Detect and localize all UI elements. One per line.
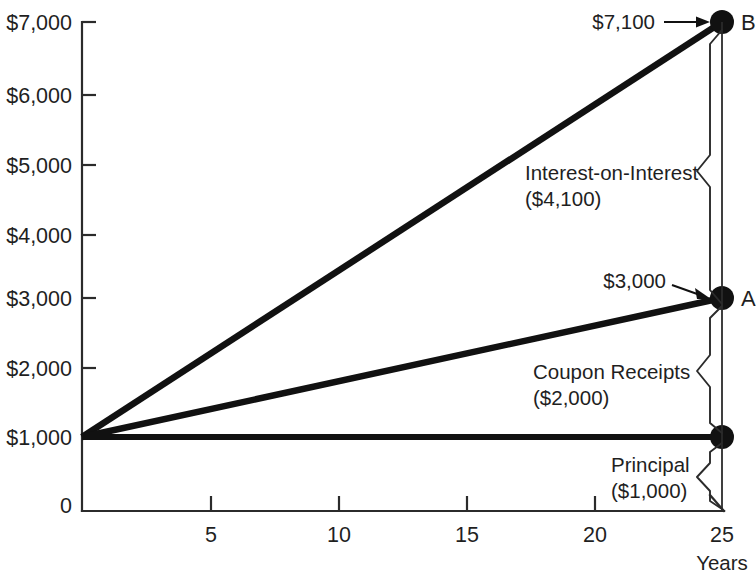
brace-interest-on-interest (697, 30, 722, 304)
x-axis-tick-labels: 5 10 15 20 25 (205, 523, 734, 547)
annotation-amount-principal: ($1,000) (611, 479, 687, 502)
brace-coupon-receipts (697, 306, 722, 433)
point-letter-a: A (741, 286, 756, 311)
callout-arrow-head-7100 (696, 17, 710, 28)
y-tick-label-1000: $1,000 (6, 426, 72, 450)
y-tick-label-4000: $4,000 (6, 224, 72, 248)
x-tick-label-25: 25 (710, 523, 734, 547)
annotation-label-principal: Principal (611, 453, 690, 476)
chart-container: $7,000 $6,000 $5,000 $4,000 $3,000 $2,00… (0, 0, 756, 574)
x-tick-label-20: 20 (583, 523, 607, 547)
point-letter-b: B (741, 10, 756, 35)
y-axis-ticks (82, 95, 96, 437)
callout-3000-group: $3,000 (603, 269, 711, 299)
callout-label-7100: $7,100 (592, 10, 655, 33)
y-tick-label-7000: $7,000 (6, 11, 72, 35)
callout-label-3000: $3,000 (603, 269, 666, 292)
brace-principal (697, 443, 722, 509)
x-tick-label-15: 15 (455, 523, 479, 547)
x-axis-title: Years (696, 551, 748, 574)
annotation-label-coupon-receipts: Coupon Receipts (533, 360, 690, 383)
annotation-label-interest-on-interest: Interest-on-Interest (525, 161, 698, 184)
y-tick-label-2000: $2,000 (6, 357, 72, 381)
callout-7100-group: $7,100 (592, 10, 710, 33)
annotation-amount-coupon-receipts: ($2,000) (533, 386, 609, 409)
annotation-amount-interest-on-interest: ($4,100) (525, 187, 601, 210)
x-axis-ticks (211, 496, 595, 511)
y-tick-label-0: 0 (60, 494, 72, 518)
x-tick-label-5: 5 (205, 523, 217, 547)
y-tick-label-6000: $6,000 (6, 84, 72, 108)
y-tick-label-5000: $5,000 (6, 154, 72, 178)
investment-growth-chart: $7,000 $6,000 $5,000 $4,000 $3,000 $2,00… (0, 0, 756, 574)
x-tick-label-10: 10 (327, 523, 351, 547)
callout-arrow-head-3000 (695, 288, 711, 299)
y-axis-tick-labels: $7,000 $6,000 $5,000 $4,000 $3,000 $2,00… (6, 11, 72, 518)
y-tick-label-3000: $3,000 (6, 287, 72, 311)
